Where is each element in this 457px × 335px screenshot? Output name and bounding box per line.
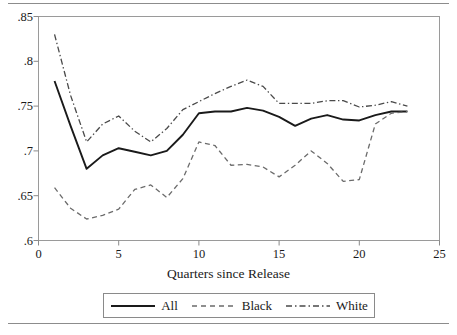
legend-swatch-white	[285, 301, 331, 311]
legend-label-all: All	[161, 299, 178, 312]
legend-swatch-black	[191, 301, 237, 311]
legend-entry-white: White	[285, 299, 368, 312]
legend-label-white: White	[336, 299, 368, 312]
figure-container: .85.8.75.7.65.6 0510152025 Quarters sinc…	[0, 0, 457, 335]
legend-swatch-all	[110, 301, 156, 311]
legend-label-black: Black	[242, 299, 272, 312]
x-axis-tick-labels: 0510152025	[0, 248, 457, 266]
top-horizontal-rule	[8, 3, 449, 4]
x-tick-label: 20	[344, 248, 374, 261]
y-tick-label: .7	[3, 145, 33, 157]
y-tick-label: .75	[3, 100, 33, 112]
y-axis-tick-labels: .85.8.75.7.65.6	[0, 0, 33, 260]
legend-entry-all: All	[110, 299, 178, 312]
x-tick-label: 25	[425, 248, 455, 261]
y-tick-label: .6	[3, 235, 33, 247]
x-tick-label: 10	[184, 248, 214, 261]
bottom-horizontal-rule	[8, 323, 449, 324]
x-tick-label: 0	[24, 248, 54, 261]
x-tick-label: 5	[104, 248, 134, 261]
y-tick-label: .65	[3, 190, 33, 202]
plot-area	[38, 16, 440, 241]
x-tick-label: 15	[264, 248, 294, 261]
chart-legend: All Black White	[103, 293, 375, 318]
x-axis-title: Quarters since Release	[0, 266, 457, 282]
y-tick-label: .8	[3, 55, 33, 67]
y-tick-label: .85	[3, 11, 33, 23]
legend-entry-black: Black	[191, 299, 272, 312]
